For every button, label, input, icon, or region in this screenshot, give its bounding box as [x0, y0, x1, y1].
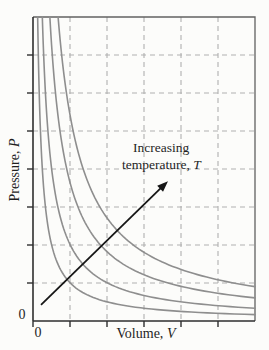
annotation-line2-text: temperature,: [122, 157, 193, 172]
y-axis-label-text: Pressure,: [7, 147, 22, 201]
pv-isotherm-chart: Pressure, P Volume, V 0 0 Increasing tem…: [0, 0, 269, 350]
x-axis-label-text: Volume,: [117, 326, 167, 341]
plot-area: [27, 17, 255, 327]
pv-diagram-figure: Pressure, P Volume, V 0 0 Increasing tem…: [0, 0, 269, 350]
annotation-increasing-line2: temperature, T: [122, 157, 202, 172]
annotation-line2-symbol: T: [193, 157, 202, 172]
y-origin-label: 0: [19, 307, 26, 322]
x-origin-label: 0: [35, 325, 42, 340]
annotation-increasing-line1: Increasing: [133, 140, 189, 155]
y-axis-label: Pressure, P: [7, 138, 22, 201]
x-axis-label-symbol: V: [167, 326, 177, 341]
x-axis-label: Volume, V: [117, 326, 177, 341]
y-axis-label-symbol: P: [7, 138, 22, 148]
temperature-arrow-shaft: [41, 187, 162, 304]
